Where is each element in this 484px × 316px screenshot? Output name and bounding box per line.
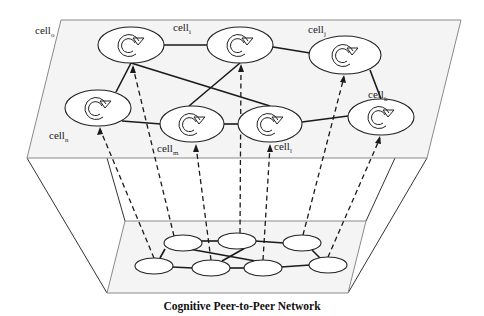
diagram-canvas: cello celli cellj cellk celln cellm cell… bbox=[0, 0, 484, 316]
cell-label-o: cello bbox=[35, 24, 55, 39]
peer-node[interactable] bbox=[192, 260, 230, 276]
cell-node[interactable] bbox=[348, 99, 414, 135]
peer-node[interactable] bbox=[218, 233, 256, 249]
peer-node[interactable] bbox=[309, 257, 347, 273]
figure-caption: Cognitive Peer-to-Peer Network bbox=[163, 300, 321, 313]
cell-node[interactable] bbox=[65, 90, 131, 126]
cell-node[interactable] bbox=[309, 36, 381, 74]
cell-node[interactable] bbox=[160, 106, 224, 142]
peer-node[interactable] bbox=[135, 258, 173, 274]
peer-node[interactable] bbox=[283, 235, 321, 251]
cell-node[interactable] bbox=[238, 106, 302, 142]
peer-node[interactable] bbox=[164, 235, 202, 251]
cell-node[interactable] bbox=[207, 27, 273, 63]
cell-node[interactable] bbox=[98, 27, 164, 63]
peer-node[interactable] bbox=[244, 260, 282, 276]
